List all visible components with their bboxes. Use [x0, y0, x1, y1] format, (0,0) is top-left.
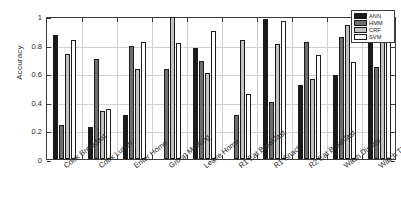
bar-ann — [53, 35, 58, 159]
bar-hmm — [129, 46, 134, 159]
x-tick-label: R1 Snack — [272, 163, 278, 170]
bar-hmm — [339, 37, 344, 159]
y-axis-tick-labels: 00.20.40.60.81 — [16, 0, 42, 222]
bar-group — [187, 18, 222, 159]
bar-series-container — [47, 18, 395, 159]
bar-crf — [170, 17, 175, 159]
bar-ann — [123, 115, 128, 159]
bar-hmm — [234, 115, 239, 159]
legend-swatch-hmm — [354, 20, 367, 26]
chart-legend: ANNHMMCRFSVM — [351, 10, 395, 43]
legend-label: ANN — [369, 13, 381, 20]
x-tick-label: R2 Eat Breakfast — [307, 163, 313, 170]
y-tick-label: 0 — [18, 156, 42, 165]
bar-ann — [298, 85, 303, 159]
bar-svm — [211, 31, 216, 159]
bar-hmm — [269, 102, 274, 159]
legend-item-crf: CRF — [354, 27, 392, 34]
bar-group — [222, 18, 257, 159]
x-tick-label: Group Meeting — [167, 163, 173, 170]
x-tick-label: Cook Breakfast — [62, 163, 68, 170]
x-tick-label: Watch TV — [377, 163, 383, 170]
bar-crf — [205, 73, 210, 160]
bar-ann — [263, 19, 268, 159]
y-tick-label: 0.8 — [18, 41, 42, 50]
bar-group — [117, 18, 152, 159]
legend-label: CRF — [369, 27, 381, 34]
legend-swatch-svm — [354, 34, 367, 40]
bar-hmm — [199, 61, 204, 159]
y-tick-label: 0.2 — [18, 127, 42, 136]
bar-hmm — [164, 69, 169, 159]
legend-item-hmm: HMM — [354, 20, 392, 27]
bar-hmm — [94, 59, 99, 159]
legend-swatch-ann — [354, 13, 367, 19]
bar-svm — [71, 40, 76, 159]
bar-group — [257, 18, 292, 159]
bar-hmm — [59, 125, 64, 159]
x-tick-label: Enter Home — [132, 163, 138, 170]
bar-crf — [65, 54, 70, 159]
bar-hmm — [374, 67, 379, 159]
bar-hmm — [304, 42, 309, 159]
bar-crf — [310, 79, 315, 159]
bar-crf — [240, 40, 245, 159]
bar-crf — [380, 24, 385, 159]
bar-ann — [333, 75, 338, 159]
bar-svm — [316, 55, 321, 159]
y-tick-label: 1 — [18, 13, 42, 22]
x-tick-label: R1 Eat Breakfast — [237, 163, 243, 170]
bar-crf — [345, 25, 350, 159]
bar-svm — [106, 109, 111, 159]
bar-ann — [88, 127, 93, 159]
bar-svm — [141, 42, 146, 159]
plot-area — [46, 17, 396, 160]
bar-group — [152, 18, 187, 159]
x-tick-label: Wash Dishes — [342, 163, 348, 170]
y-tickmark — [391, 161, 395, 162]
x-tick-label: Leave Home — [202, 163, 208, 170]
legend-label: SVM — [369, 34, 381, 41]
bar-svm — [351, 62, 356, 159]
x-tick-label: Cook Lunch — [97, 163, 103, 170]
bar-chart-figure: Accuracy 00.20.40.60.81 Cook BreakfastCo… — [0, 0, 401, 222]
bar-crf — [275, 44, 280, 159]
bar-svm — [281, 21, 286, 159]
bar-crf — [135, 69, 140, 159]
legend-item-ann: ANN — [354, 13, 392, 20]
bar-crf — [100, 111, 105, 159]
bar-group — [82, 18, 117, 159]
bar-svm — [176, 43, 181, 159]
y-tick-label: 0.4 — [18, 98, 42, 107]
bar-group — [292, 18, 327, 159]
bar-ann — [193, 48, 198, 159]
legend-label: HMM — [369, 20, 383, 27]
y-tickmark — [47, 161, 51, 162]
bar-group — [47, 18, 82, 159]
bar-svm — [246, 94, 251, 159]
legend-swatch-crf — [354, 27, 367, 33]
y-tick-label: 0.6 — [18, 70, 42, 79]
legend-item-svm: SVM — [354, 34, 392, 41]
